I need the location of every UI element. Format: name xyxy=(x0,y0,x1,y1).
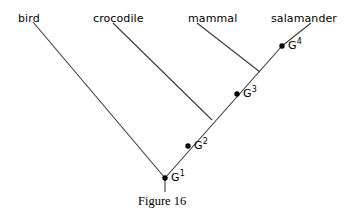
node-label-g3-base: G xyxy=(243,87,252,100)
node-label-g1-base: G xyxy=(171,171,180,184)
node-label-g2-superscript: 2 xyxy=(203,137,208,146)
node-dot-g2 xyxy=(185,143,190,148)
node-label-g1-superscript: 1 xyxy=(180,169,185,178)
node-label-g3-superscript: 3 xyxy=(252,85,257,94)
bird-branch xyxy=(33,22,165,178)
crocodile-branch xyxy=(113,23,212,120)
node-dot-g1 xyxy=(162,175,167,180)
spine xyxy=(165,46,282,178)
mammal-branch xyxy=(197,23,260,72)
taxon-label-bird: bird xyxy=(18,13,40,25)
node-label-g2-base: G xyxy=(194,139,203,152)
node-label-g2: G2 xyxy=(194,140,208,152)
figure-16-phylogenetic-tree: bird crocodile mammal salamander G1 G2 G… xyxy=(0,0,358,221)
node-label-g1: G1 xyxy=(171,172,185,184)
node-dot-g4 xyxy=(279,43,284,48)
node-label-g3: G3 xyxy=(243,88,257,100)
taxon-label-salamander: salamander xyxy=(271,13,337,25)
node-label-g4: G4 xyxy=(288,40,302,52)
taxon-label-crocodile: crocodile xyxy=(93,13,144,25)
taxon-label-mammal: mammal xyxy=(188,13,237,25)
node-dot-g3 xyxy=(234,91,239,96)
node-label-g4-superscript: 4 xyxy=(297,37,302,46)
branch-group xyxy=(33,22,311,192)
figure-caption: Figure 16 xyxy=(138,194,186,208)
node-label-g4-base: G xyxy=(288,39,297,52)
tree-drawing xyxy=(0,0,358,221)
